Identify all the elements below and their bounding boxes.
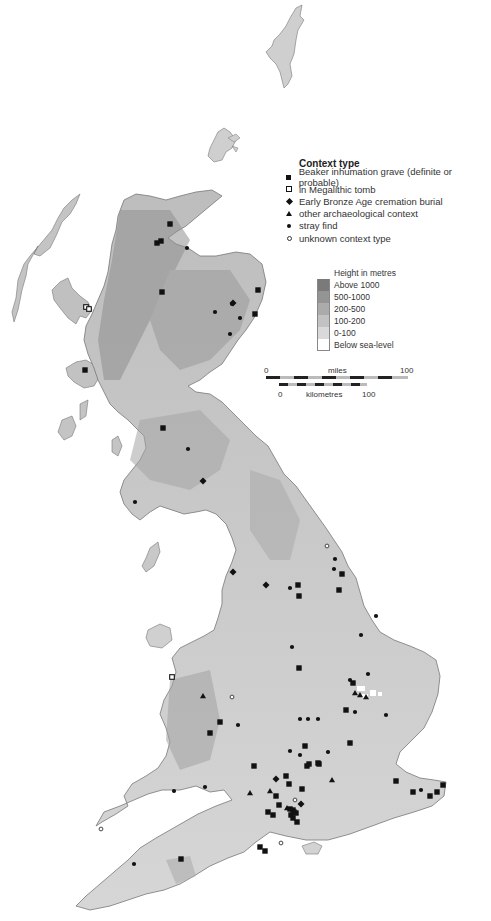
beaker-inhumation-marker [306,761,311,766]
height-swatch [317,279,330,291]
beaker-inhumation-marker [217,719,222,724]
beaker-inhumation-marker [343,707,348,712]
stray-find-marker [306,717,310,721]
unknown-context-marker [279,841,283,845]
stray-find-marker [185,246,189,250]
isle-of-arran [112,436,122,456]
stray-find-marker [326,750,330,754]
beaker-inhumation-marker [158,238,163,243]
beaker-inhumation-marker [393,778,398,783]
beaker-inhumation-marker [273,793,278,798]
beaker-inhumation-marker [316,761,321,766]
legend-item-beaker-inhumation: Beaker inhumation grave (definite or pro… [286,171,491,183]
beaker-inhumation-marker [302,743,307,748]
beaker-inhumation-marker [339,571,344,576]
beaker-inhumation-marker [255,287,260,292]
height-swatch [317,327,330,339]
beaker-inhumation-marker [252,311,257,316]
stray-find-marker [333,557,337,561]
km-end-label: 100 [362,390,375,399]
filled-dot-icon [287,224,291,228]
height-swatch [317,291,330,303]
stray-find-marker [172,789,176,793]
filled-diamond-icon [285,198,292,205]
height-band: 200-500 [317,303,396,315]
context-type-legend: Context type Beaker inhumation grave (de… [286,158,491,244]
beaker-inhumation-marker [296,665,301,670]
anglesey [146,624,172,648]
stray-find-marker [359,633,363,637]
stray-find-marker [298,717,302,721]
isle-of-man [142,542,160,572]
miles-start-label: 0 [264,366,268,375]
stray-find-marker [353,710,357,714]
stray-find-marker [288,749,292,753]
beaker-inhumation-marker [295,582,300,587]
beaker-inhumation-marker [82,367,87,372]
beaker-inhumation-marker [262,848,267,853]
stray-find-marker [238,316,242,320]
beaker-inhumation-marker [167,221,172,226]
stray-find-marker [374,614,378,618]
beaker-inhumation-marker [427,793,432,798]
beaker-inhumation-marker [440,782,445,787]
beaker-inhumation-marker [207,730,212,735]
stray-find-marker [186,447,190,451]
isle-of-skye [52,278,92,324]
beaker-inhumation-marker [294,819,299,824]
legend-item-stray-find: stray find [286,220,491,232]
megalithic-tomb-marker [170,675,175,680]
beaker-inhumation-marker [299,786,304,791]
stray-find-marker [228,332,232,336]
scale-bar: 0 miles 100 0 kilometres 100 [262,366,412,406]
unknown-context-marker [99,827,103,831]
shetland-islands [266,5,304,88]
height-swatch [317,315,330,327]
stray-find-marker [419,788,423,792]
miles-end-label: 100 [400,366,413,375]
stray-find-marker [213,310,217,314]
beaker-inhumation-marker [293,810,298,815]
legend-item-unknown-context: unknown context type [286,232,491,244]
height-band: 100-200 [317,315,396,327]
beaker-inhumation-marker [160,425,165,430]
height-band: Above 1000 [317,279,396,291]
stray-find-marker [288,586,292,590]
beaker-inhumation-marker [257,844,262,849]
beaker-inhumation-marker [296,593,301,598]
stray-find-marker [384,713,388,717]
miles-label: miles [328,366,347,375]
stray-find-marker [366,672,370,676]
stray-find-marker [298,753,302,757]
height-legend-title: Height in metres [334,268,396,279]
islay-jura [58,400,88,440]
height-band: Below sea-level [317,339,396,351]
isle-of-wight [302,842,322,854]
beaker-inhumation-marker [251,763,256,768]
height-band: 500-1000 [317,291,396,303]
beaker-inhumation-marker [178,856,183,861]
stray-find-marker [230,302,234,306]
beaker-inhumation-marker [265,809,270,814]
height-swatch [317,303,330,315]
stray-find-marker [290,645,294,649]
stray-find-marker [316,717,320,721]
unknown-context-marker [230,695,234,699]
open-dot-icon [287,236,292,241]
filled-square-icon [286,175,291,180]
beaker-inhumation-marker [276,802,281,807]
stray-find-marker [203,785,207,789]
scale-bar-graphic [262,375,412,389]
stray-find-marker [236,723,240,727]
km-label: kilometres [306,390,342,399]
stray-find-marker [133,500,137,504]
orkney-islands [208,128,236,162]
height-band: 0-100 [317,327,396,339]
beaker-inhumation-marker [410,789,415,794]
beaker-inhumation-marker [336,587,341,592]
beaker-inhumation-marker [286,781,291,786]
unknown-context-marker [325,544,329,548]
open-square-icon [286,186,292,192]
beaker-inhumation-marker [270,812,275,817]
map-of-great-britain [0,0,491,921]
